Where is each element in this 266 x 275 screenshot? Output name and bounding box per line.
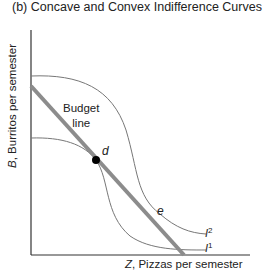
y-axis-label: B, Burritos per semester <box>6 44 18 168</box>
indifference-curve-i1 <box>31 138 206 250</box>
diagram-canvas <box>0 0 266 275</box>
x-axis-label: Z, Pizzas per semester <box>125 258 243 270</box>
curve-i1-sup: 1 <box>208 241 212 250</box>
budget-line-label: Budget line <box>63 101 99 131</box>
x-axis-text: , Pizzas per semester <box>132 258 243 270</box>
point-e-label: e <box>157 204 164 218</box>
y-axis-text: , Burritos per semester <box>6 44 18 160</box>
point-d-marker <box>92 156 100 164</box>
point-d-label: d <box>102 144 109 158</box>
y-axis-var: B <box>6 160 18 168</box>
curve-i2-label: I2 <box>205 226 213 239</box>
budget-label-line2: line <box>63 116 99 131</box>
x-axis-var: Z <box>125 258 132 270</box>
budget-line <box>31 86 184 255</box>
budget-label-line1: Budget <box>63 101 99 116</box>
curve-i2-sup: 2 <box>208 226 212 235</box>
curve-i1-label: I1 <box>205 241 213 254</box>
indifference-curve-i2 <box>31 76 206 234</box>
